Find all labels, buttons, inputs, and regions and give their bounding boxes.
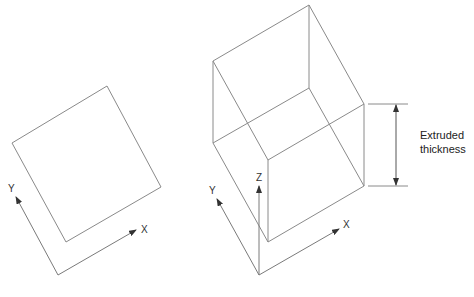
- right-box: [213, 5, 364, 242]
- right-axes: [217, 186, 339, 275]
- left-x-axis-arrow-icon: [58, 230, 136, 275]
- right-z-label: Z: [256, 172, 262, 183]
- dimension-label-line1: Extruded: [420, 129, 464, 141]
- left-square: [12, 86, 161, 242]
- right-x-axis-arrow-icon: [259, 229, 339, 275]
- diagram-canvas: Y X Y Z X Extruded thickness: [0, 0, 474, 297]
- right-y-label: Y: [209, 185, 216, 196]
- left-y-axis-arrow-icon: [16, 197, 58, 275]
- left-y-label: Y: [8, 183, 15, 194]
- left-x-label: X: [141, 224, 148, 235]
- right-x-label: X: [343, 219, 350, 230]
- right-y-axis-arrow-icon: [217, 199, 259, 275]
- thickness-dimension: [368, 104, 408, 186]
- dimension-label-line2: thickness: [420, 143, 466, 155]
